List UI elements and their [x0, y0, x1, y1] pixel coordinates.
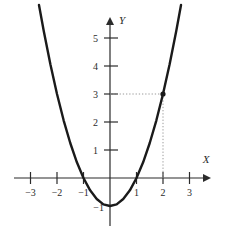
y-axis-arrow	[106, 17, 114, 25]
y-tick-label-4: 4	[93, 61, 98, 72]
x-tick-label--3: −3	[25, 187, 36, 198]
y-axis-label: Y	[119, 14, 127, 26]
y-tick-label-3: 3	[93, 89, 98, 100]
x-tick-label--1: −1	[78, 187, 89, 198]
x-tick-labels-group: −3 −2 −1 1 2 3	[25, 187, 192, 198]
x-tick-label--2: −2	[52, 187, 63, 198]
x-tick-label-3: 3	[187, 187, 192, 198]
y-tick-label-1: 1	[93, 145, 98, 156]
x-axis-label: X	[202, 153, 211, 165]
x-tick-label-1: 1	[134, 187, 139, 198]
graph-figure: −3 −2 −1 1 2 3 5 4 3 2 1 −1	[0, 0, 227, 236]
x-axis-arrow	[203, 174, 211, 182]
y-tick-label-5: 5	[93, 33, 98, 44]
y-tick-labels-group: 5 4 3 2 1 −1	[93, 33, 104, 213]
y-tick-label-2: 2	[93, 117, 98, 128]
point-marker-2-3	[160, 91, 165, 96]
guide-lines-group	[110, 94, 163, 178]
parabola-plot: −3 −2 −1 1 2 3 5 4 3 2 1 −1	[0, 0, 227, 236]
x-tick-label-2: 2	[161, 187, 166, 198]
